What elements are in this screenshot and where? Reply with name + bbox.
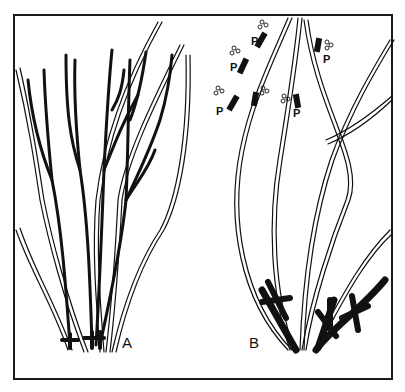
pruning-diagram: P P P P P A B bbox=[0, 0, 405, 392]
pruning-point-label: P bbox=[251, 36, 258, 47]
panel-label-b: B bbox=[249, 334, 259, 351]
panel-label-a: A bbox=[122, 334, 132, 351]
pruning-point-label: P bbox=[216, 106, 223, 117]
pruning-point-label: P bbox=[230, 62, 237, 73]
pruning-point-label: P bbox=[323, 54, 330, 65]
pruning-point-label: P bbox=[293, 108, 300, 119]
illustration bbox=[0, 0, 405, 392]
